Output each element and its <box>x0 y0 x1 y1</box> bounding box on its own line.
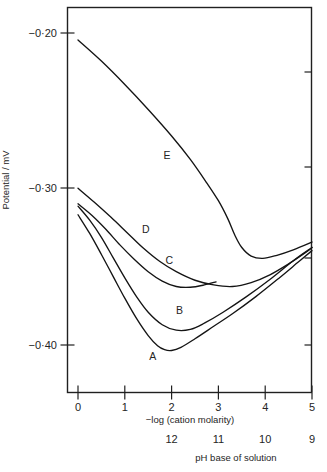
ph-tick-label: 11 <box>213 433 224 445</box>
ph-tick-label: 10 <box>259 433 271 445</box>
ph-tick-label: 9 <box>309 433 315 445</box>
curve-label-a: A <box>149 350 156 362</box>
x-axis-tick-labels: 012345 <box>75 401 315 413</box>
chart-svg: −0·20 −0·30 −0·40 Potential / mV 012345 … <box>0 0 327 472</box>
x-tick-label: 0 <box>75 401 81 413</box>
curve-e <box>78 40 312 258</box>
right-edge-ticks <box>305 72 312 345</box>
x-tick-label: 2 <box>169 401 175 413</box>
curve-label-d: D <box>142 223 150 235</box>
ph-axis-labels: 1211109 <box>165 433 315 445</box>
curve-label-c: C <box>165 254 173 266</box>
curve-group <box>78 40 312 351</box>
curve-label-b: B <box>176 304 183 316</box>
x-axis-title: −log (cation molarity) <box>146 414 234 425</box>
ph-tick-label: 12 <box>165 433 177 445</box>
y-tick-label-1: −0·30 <box>29 182 57 194</box>
chart-figure: −0·20 −0·30 −0·40 Potential / mV 012345 … <box>0 0 327 472</box>
y-tick-label-2: −0·40 <box>29 339 57 351</box>
curve-label-e: E <box>163 149 170 161</box>
plot-frame <box>68 8 312 393</box>
x-tick-label: 5 <box>309 401 315 413</box>
curve-a <box>78 215 312 351</box>
curve-b <box>78 206 312 330</box>
x-tick-label: 1 <box>122 401 128 413</box>
x-tick-label: 3 <box>215 401 221 413</box>
x-tick-label: 4 <box>262 401 268 413</box>
curve-c <box>78 204 216 288</box>
ph-axis-title: pH base of solution <box>195 452 276 463</box>
y-tick-label-0: −0·20 <box>29 27 57 39</box>
y-axis-title: Potential / mV <box>0 150 11 210</box>
